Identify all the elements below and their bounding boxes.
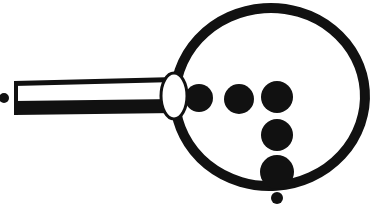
stray-dot-below (271, 192, 283, 204)
lens-dot-row-middle (224, 84, 254, 114)
lens-dot-center (261, 119, 293, 151)
artboard: Magnifying Glass Black and white line-ar… (0, 0, 385, 207)
lens-dot-bottom (260, 155, 294, 189)
handle-left-cap (14, 81, 18, 115)
handle-bottom-edge (14, 99, 176, 115)
lens-dot-row-left (185, 84, 213, 112)
lens-dot-row-right (261, 81, 293, 113)
magnifying-glass-icon (0, 0, 385, 207)
ferrule-joint (161, 73, 187, 119)
